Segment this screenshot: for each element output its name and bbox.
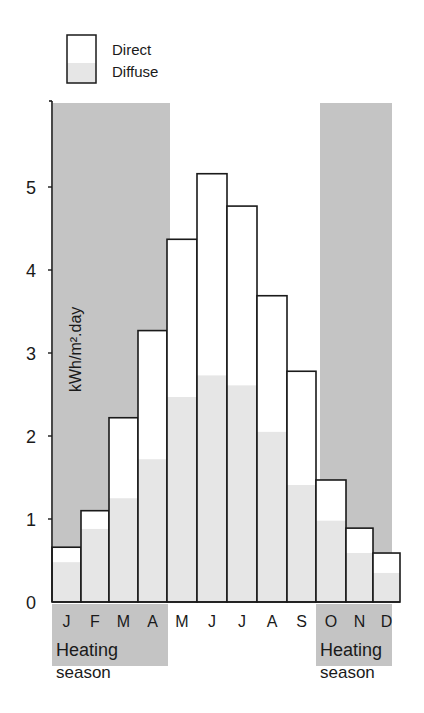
heating-season-right-line2: season <box>320 663 375 682</box>
bar-diffuse-segment <box>197 375 227 602</box>
month-label: J <box>208 613 216 630</box>
bar-1 <box>81 511 109 602</box>
y-tick-label: 1 <box>26 510 36 530</box>
bar-diffuse-segment <box>109 498 138 602</box>
month-label: F <box>90 613 100 630</box>
heating-season-left-line2: season <box>56 663 111 682</box>
y-tick-label: 0 <box>26 593 36 613</box>
y-tick-label: 5 <box>26 178 36 198</box>
bar-9 <box>316 480 346 602</box>
month-label: M <box>117 613 130 630</box>
bar-2 <box>109 418 138 602</box>
month-label: A <box>267 613 278 630</box>
bar-diffuse-segment <box>138 459 167 602</box>
legend-diffuse-label: Diffuse <box>112 63 158 80</box>
month-label: S <box>296 613 307 630</box>
y-axis-label: kWh/m².day <box>67 307 84 392</box>
bar-diffuse-segment <box>316 521 346 602</box>
bar-diffuse-segment <box>167 397 197 602</box>
bar-diffuse-segment <box>81 529 109 602</box>
bar-diffuse-segment <box>227 385 257 602</box>
heating-season-left-line1: Heating <box>56 640 118 660</box>
bar-diffuse-segment <box>257 432 287 602</box>
month-label: J <box>238 613 246 630</box>
month-label: D <box>381 613 393 630</box>
bar-5 <box>197 174 227 602</box>
legend-direct-label: Direct <box>112 41 152 58</box>
legend-diffuse-swatch <box>67 63 96 83</box>
bar-4 <box>167 239 197 602</box>
solar-radiation-chart: 012345 kWh/m².day JFMAMJJASOND Direct Di… <box>0 0 424 713</box>
bar-diffuse-segment <box>287 485 316 602</box>
month-label: O <box>325 613 337 630</box>
heating-season-right-line1: Heating <box>320 640 382 660</box>
bar-10 <box>346 528 373 602</box>
bar-0 <box>52 547 81 602</box>
bar-3 <box>138 331 167 602</box>
bar-diffuse-segment <box>373 573 400 602</box>
bar-7 <box>257 296 287 602</box>
month-label: N <box>354 613 366 630</box>
bar-diffuse-segment <box>52 562 81 602</box>
month-label: M <box>175 613 188 630</box>
month-label: A <box>147 613 158 630</box>
y-tick-label: 3 <box>26 344 36 364</box>
bar-8 <box>287 371 316 602</box>
month-label: J <box>63 613 71 630</box>
legend: Direct Diffuse <box>67 35 158 83</box>
bar-6 <box>227 206 257 602</box>
bar-11 <box>373 553 400 602</box>
bar-diffuse-segment <box>346 553 373 602</box>
y-tick-label: 2 <box>26 427 36 447</box>
y-tick-label: 4 <box>26 261 36 281</box>
